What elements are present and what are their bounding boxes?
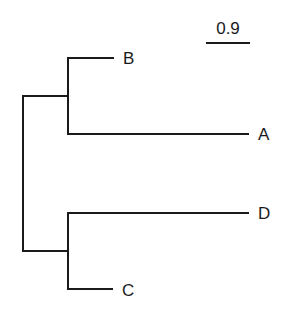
taxon-label-a: A — [258, 125, 270, 144]
scale-bar: 0.9 — [207, 19, 249, 43]
scale-bar-label: 0.9 — [216, 19, 240, 38]
taxon-label-b: B — [123, 49, 134, 68]
clade-lower — [68, 213, 248, 289]
taxon-label-d: D — [258, 204, 270, 223]
taxon-label-c: C — [122, 281, 134, 300]
root-node — [23, 96, 68, 251]
phylogenetic-tree: 0.9 B A D C — [0, 0, 287, 309]
clade-upper — [68, 58, 248, 134]
